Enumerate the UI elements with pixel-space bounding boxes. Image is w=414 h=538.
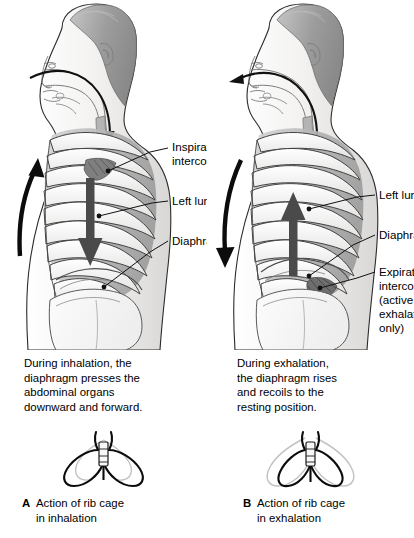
label-expiratory-intercostals-line1: Expiratory (379, 265, 414, 278)
caption-line: the diaphragm rises (237, 371, 414, 386)
panel-label-a: AAction of rib cage in inhalation (0, 496, 229, 525)
label-left-lung: Left lung (172, 194, 207, 207)
caption-inhalation: During inhalation, the diaphragm presses… (0, 356, 231, 414)
label-diaphragm: Diaphragm (172, 234, 207, 247)
label-expiratory-intercostals-line3: (active (379, 293, 413, 306)
abdominal-organs (256, 289, 349, 350)
caption-line: diaphragm presses the (24, 371, 231, 386)
panel-label-b-line2: in exhalation (243, 511, 414, 526)
panel-label-a-line1: Action of rib cage (36, 497, 124, 509)
panel-label-a-line2: in inhalation (22, 511, 229, 526)
caption-line: resting position. (237, 400, 414, 415)
panel-exhalation: Left lung Diaphragm Expiratory intercost… (207, 0, 414, 538)
label-expiratory-intercostals-line4: exhalation (379, 307, 414, 320)
label-inspiratory-intercostals-line2: intercostals (172, 154, 207, 167)
label-expiratory-intercostals-line5: only) (379, 321, 404, 334)
bottom-margin (0, 532, 414, 538)
label-expiratory-intercostals-line2: intercostals (379, 279, 414, 292)
label-left-lung: Left lung (379, 188, 414, 201)
panel-letter-b: B (243, 496, 257, 511)
caption-exhalation: During exhalation, the diaphragm rises a… (207, 356, 414, 414)
caption-line: abdominal organs (24, 385, 231, 400)
illustration-page: Inspiratory intercostals Left lung Diaph… (0, 0, 414, 538)
label-diaphragm: Diaphragm (379, 228, 414, 241)
caption-line: During exhalation, (237, 356, 414, 371)
label-inspiratory-intercostals-line1: Inspiratory (172, 140, 207, 153)
ribcage-down-arrow (216, 160, 241, 268)
abdominal-organs (49, 289, 142, 350)
caption-line: downward and forward. (24, 400, 231, 415)
figure-exhalation-body: Left lung Diaphragm Expiratory intercost… (207, 0, 414, 350)
ribcage-section-inhalation (0, 424, 207, 492)
panel-label-b-line1: Action of rib cage (257, 497, 345, 509)
panel-letter-a: A (22, 496, 36, 511)
figure-inhalation-body: Inspiratory intercostals Left lung Diaph… (0, 0, 207, 350)
panel-label-b: BAction of rib cage in exhalation (207, 496, 414, 525)
panel-inhalation: Inspiratory intercostals Left lung Diaph… (0, 0, 207, 538)
caption-line: and recoils to the (237, 385, 414, 400)
caption-line: During inhalation, the (24, 356, 231, 371)
ribcage-section-exhalation (207, 424, 414, 492)
